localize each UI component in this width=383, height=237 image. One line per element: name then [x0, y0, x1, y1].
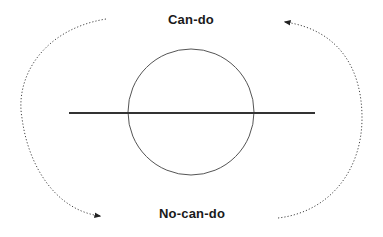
- right-dotted-arrow: [278, 22, 362, 218]
- diagram-canvas: Can-do No-can-do: [0, 0, 383, 237]
- cycle-diagram: [0, 0, 383, 237]
- no-can-do-label: No-can-do: [159, 206, 225, 221]
- can-do-label: Can-do: [168, 12, 214, 27]
- left-dotted-arrow: [21, 19, 106, 216]
